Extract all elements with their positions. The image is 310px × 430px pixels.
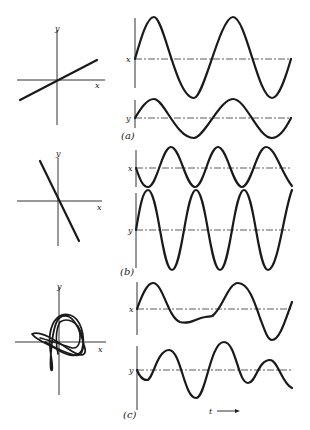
x-axis-label: x [95,81,100,90]
y-series-label: y [127,226,133,235]
y-axis-label: y [56,282,62,291]
panel-a-x-series: x [126,17,292,98]
y-wave [135,99,291,138]
time-axis-indicator: t [209,407,240,416]
x-series-label: x [128,164,133,173]
x-axis-label: x [98,345,103,354]
arrow-right-icon [235,409,240,413]
x-wave [135,17,291,98]
x-series-label: x [126,55,131,64]
y-axis-label: y [54,24,60,33]
time-axis-label: t [209,407,213,416]
panel-a-phase-plot: y x [17,24,105,125]
y-series-label: y [125,114,131,123]
x-axis-label: x [97,203,102,212]
y-axis-label: y [55,149,61,158]
panel-b-phase-plot: y x [17,149,102,246]
panel-c: y x x y (c) t [15,282,292,420]
panel-b-x-series: x [128,147,292,187]
panel-a-y-series: y [125,99,292,138]
y-series-label: y [128,366,134,375]
panel-a-label: (a) [121,130,135,141]
panel-c-x-series: x [129,282,292,340]
x-series-label: x [129,305,134,314]
panel-c-y-series: y [128,342,292,410]
panel-c-label: (c) [123,409,137,420]
panel-b: y x x y (b) [17,147,292,277]
x-wave [137,283,292,340]
x-wave [136,147,292,187]
panel-b-y-series: y [127,190,292,270]
correlation-diagram: y x x y (a) y x x [0,0,310,430]
panel-c-phase-plot: y x [15,282,106,395]
panel-a: y x x y (a) [17,17,292,141]
panel-b-label: (b) [120,266,134,277]
